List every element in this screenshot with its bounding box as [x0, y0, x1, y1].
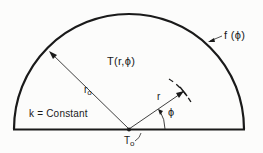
angle-arrowhead: [158, 109, 163, 115]
dashed-radius-arc: [169, 79, 192, 104]
semicircle-diagram: [0, 0, 263, 153]
origin-temp-label-sub: o: [130, 139, 134, 148]
boundary-function-arrowhead: [208, 38, 215, 42]
conductivity-label: k = Constant: [29, 109, 88, 119]
angle-label: ϕ: [168, 107, 174, 118]
diagram-canvas: T(r,ϕ) f (ϕ) ro r ϕ k = Constant To: [0, 0, 263, 153]
radial-coord-label: r: [157, 92, 160, 102]
radial-line: [129, 92, 183, 129]
boundary-function-label: f (ϕ): [224, 30, 245, 41]
temperature-field-label: T(r,ϕ): [107, 56, 135, 67]
outer-radius-label-sub: o: [87, 88, 91, 97]
origin-temp-leader: [135, 133, 141, 141]
outer-radius-label: ro: [84, 85, 92, 97]
origin-temp-label: To: [124, 136, 135, 148]
radial-arrowhead: [176, 91, 184, 98]
origin-point: [127, 128, 131, 132]
